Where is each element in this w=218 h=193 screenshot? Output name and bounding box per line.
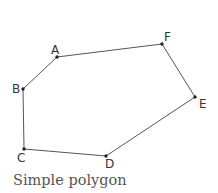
vertex-label-b: B [12,82,20,96]
vertex-label-c: C [17,151,25,165]
vertex-e [193,95,196,98]
vertex-b [21,87,24,90]
vertex-label-d: D [105,157,114,171]
polygon-diagram: AFEDCB [0,0,218,193]
vertex-label-f: F [164,30,171,44]
vertex-label-e: E [199,97,207,111]
figure-caption: Simple polygon [13,172,127,188]
vertex-label-a: A [51,43,60,57]
polygon-shape [23,44,195,156]
